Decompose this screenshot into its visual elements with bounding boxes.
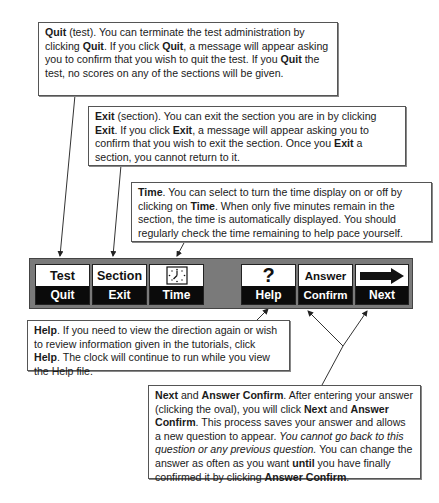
exit-button-label: Exit — [93, 286, 146, 304]
time-button[interactable]: Time — [149, 264, 204, 305]
quit-callout: Quit (test). You can terminate the test … — [38, 22, 338, 96]
right-arrow-icon — [359, 268, 405, 284]
next-button-label: Next — [356, 286, 408, 304]
help-callout: Help. If you need to view the direction … — [27, 320, 290, 371]
quit-button-label: Quit — [36, 286, 89, 304]
time-callout: Time. You can select to turn the time di… — [131, 182, 432, 242]
next-button[interactable]: Next — [355, 264, 409, 305]
exit-callout: Exit (section). You can exit the section… — [88, 106, 406, 166]
clock-icon — [166, 266, 188, 285]
question-mark-icon: ? — [242, 265, 295, 286]
help-button-label: Help — [242, 286, 295, 304]
quit-button-top-label: Test — [36, 265, 89, 286]
answer-confirm-label: Confirm — [299, 286, 352, 304]
help-button[interactable]: ? Help — [241, 264, 296, 305]
time-button-label: Time — [150, 286, 203, 304]
answer-confirm-top-label: Answer — [299, 265, 352, 286]
quit-button[interactable]: Test Quit — [35, 264, 90, 305]
answer-confirm-button[interactable]: Answer Confirm — [298, 264, 353, 305]
exit-button[interactable]: Section Exit — [92, 264, 147, 305]
exit-button-top-label: Section — [93, 265, 146, 286]
next-confirm-callout: Next and Answer Confirm. After entering … — [148, 385, 421, 479]
test-toolbar: Test Quit Section Exit Time ? Help Answe… — [29, 258, 413, 309]
